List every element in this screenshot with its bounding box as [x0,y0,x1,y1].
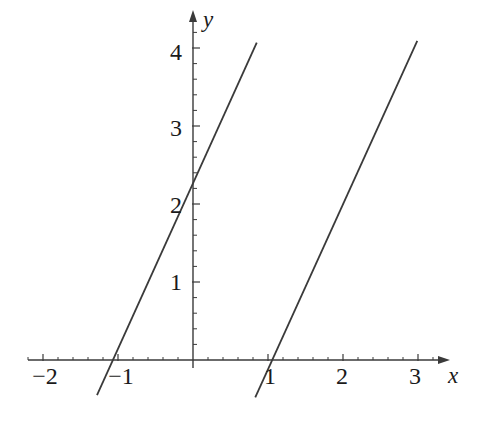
x-tick-label-3: 3 [409,364,421,388]
y-tick-label-3: 3 [170,116,182,140]
data-line-2 [255,41,417,397]
y-tick-label-1: 1 [170,270,182,294]
y-tick-label-4: 4 [170,40,182,64]
y-axis-minor-ticks [193,32,197,344]
y-tick-label-2: 2 [170,193,182,217]
x-axis-label: x [448,364,458,387]
y-axis-label: y [203,8,213,31]
x-tick-label-2: 2 [336,364,348,388]
axes-group [28,10,450,368]
x-tick-label-neg1: −1 [108,364,134,388]
data-line-1 [97,43,257,396]
data-lines-group [97,41,417,397]
x-tick-label-neg2: −2 [32,364,58,388]
y-axis-arrow-icon [189,10,197,22]
x-tick-label-1: 1 [264,364,276,388]
graph-figure: −2 −1 1 2 3 1 2 3 4 x y [0,0,487,435]
